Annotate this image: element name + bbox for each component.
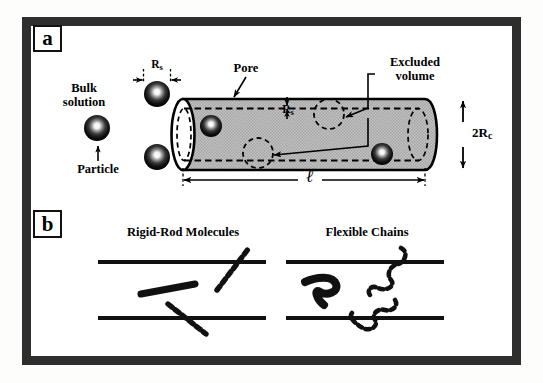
label-rigid-rod-molecules: Rigid-Rod Molecules bbox=[113, 226, 253, 240]
label-excluded-volume-line1: Excluded bbox=[372, 56, 458, 70]
label-particle: Particle bbox=[62, 163, 134, 177]
label-solute-radius-inside-subscript: s bbox=[291, 107, 294, 117]
label-solute-radius-outside-symbol: R bbox=[151, 58, 159, 70]
label-solute-radius-inside-symbol: R bbox=[282, 103, 290, 115]
label-pore-length: ℓ bbox=[296, 168, 324, 186]
label-cylinder-diameter: 2Rc bbox=[472, 126, 514, 142]
label-cylinder-diameter-subscript: c bbox=[488, 130, 492, 141]
label-cylinder-diameter-symbol: 2R bbox=[472, 125, 488, 140]
label-excluded-volume: Excluded volume bbox=[372, 56, 458, 83]
label-bulk-solution-line2: solution bbox=[48, 96, 120, 110]
label-excluded-volume-line2: volume bbox=[372, 70, 458, 84]
label-solute-radius-inside: Rs bbox=[275, 103, 301, 117]
label-solute-radius-outside: Rs bbox=[144, 58, 170, 72]
label-bulk-solution-line1: Bulk bbox=[48, 82, 120, 96]
figure-root: a b bbox=[0, 0, 543, 383]
panel-label-a: a bbox=[33, 25, 62, 52]
label-solute-radius-outside-subscript: s bbox=[160, 62, 163, 72]
label-bulk-solution: Bulk solution bbox=[48, 82, 120, 109]
label-flexible-chains: Flexible Chains bbox=[307, 226, 427, 240]
label-pore: Pore bbox=[222, 62, 270, 76]
panel-label-b: b bbox=[33, 210, 62, 238]
